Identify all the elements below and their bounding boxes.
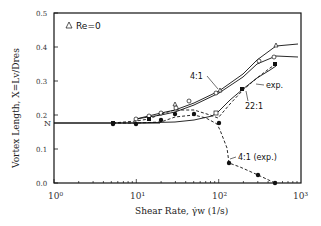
y-tick-5: 0.5 [36,10,47,18]
n-marker-label: N [44,119,51,128]
leader-exp [256,84,264,85]
filled-circle-markers [111,112,277,185]
x-tick-3: 10³ [293,191,308,201]
x-tick-1: 10¹ [130,191,145,201]
label-221: 22:1 [245,102,263,111]
chart: 0.0 0.1 0.2 0.3 0.4 0.5 N 10⁰ 10¹ 10² [0,0,321,226]
re-label: Re=0 [76,21,101,31]
x-axis-title: Shear Rate, γ̇w (1/s) [135,206,228,216]
label-exp: exp. [266,81,283,90]
label-41-exp: 4:1 (exp.) [238,153,277,162]
triangle-icon [66,22,72,28]
x-axis [54,179,297,183]
leader-41-exp [230,157,236,159]
open-square-marker [214,111,218,115]
y-axis-title: Vortex Length, X=Lv/Dres [11,48,21,169]
x-tick-0: 10⁰ [48,191,63,201]
open-circle-markers [134,55,276,121]
y-tick-1: 0.1 [36,146,47,154]
label-41: 4:1 [190,72,203,81]
y-tick-4: 0.4 [36,44,48,52]
y-tick-0: 0.0 [36,180,47,188]
y-tick-3: 0.3 [36,78,47,86]
x-tick-2: 10² [212,191,227,201]
leader-221 [246,91,248,101]
leader-41 [207,76,218,89]
